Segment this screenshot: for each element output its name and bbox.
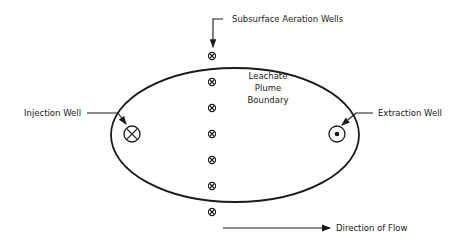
extraction-well-icon bbox=[329, 126, 345, 142]
injection-well-icon bbox=[124, 126, 140, 142]
aeration-wells-leader-arrow bbox=[213, 19, 223, 47]
aeration-well-icon bbox=[208, 78, 215, 85]
plume-label-line-3: Boundary bbox=[248, 95, 289, 105]
aeration-wells-column bbox=[208, 52, 215, 215]
aeration-well-icon bbox=[208, 156, 215, 163]
aeration-well-icon bbox=[208, 104, 215, 111]
leachate-plume-boundary bbox=[111, 68, 359, 202]
injection-well-label: Injection Well bbox=[24, 108, 81, 118]
aeration-well-icon bbox=[208, 182, 215, 189]
aeration-wells-label: Subsurface Aeration Wells bbox=[232, 14, 344, 24]
remediation-diagram: Leachate Plume Boundary Subsurface Aerat… bbox=[0, 0, 464, 247]
aeration-well-icon bbox=[208, 208, 215, 215]
plume-label-line-2: Plume bbox=[255, 83, 281, 93]
flow-direction-label: Direction of Flow bbox=[336, 223, 407, 233]
plume-label-line-1: Leachate bbox=[249, 71, 288, 81]
injection-well-leader-arrow bbox=[87, 113, 126, 124]
extraction-well-label: Extraction Well bbox=[378, 108, 442, 118]
aeration-well-icon bbox=[208, 130, 215, 137]
aeration-well-icon bbox=[208, 52, 215, 59]
